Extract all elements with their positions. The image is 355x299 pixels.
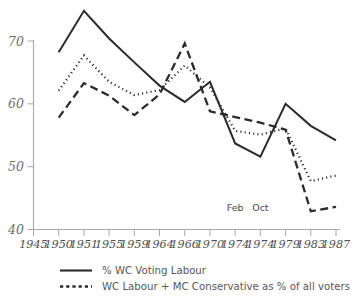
x-tick-label: 1987 — [322, 238, 351, 251]
x-tick-group — [34, 230, 337, 237]
series-line-dashed — [59, 44, 336, 212]
x-axis: 1945195019511955195919641966197019741974… — [19, 230, 351, 252]
series-line-solid — [59, 11, 336, 157]
x-tick-label: 1964 — [145, 238, 173, 251]
y-tick-label: 50 — [8, 159, 24, 174]
y-tick-label-group: 40506070 — [7, 34, 24, 238]
line-chart-svg: 40506070 1945195019511955195919641966197… — [0, 0, 355, 299]
y-tick-label: 60 — [8, 96, 24, 111]
y-tick-label: 40 — [7, 222, 24, 237]
annotation-group: FebOct — [227, 202, 269, 213]
y-axis: 40506070 — [7, 34, 33, 238]
legend: % WC Voting Labour WC Labour + MC Conser… — [60, 265, 350, 292]
series-group — [59, 11, 336, 211]
x-tick-label: 1983 — [297, 238, 325, 251]
x-tick-label: 1951 — [70, 238, 98, 251]
annotation-label: Oct — [252, 202, 269, 213]
x-tick-label: 1979 — [271, 238, 299, 251]
annotation-label: Feb — [227, 202, 244, 213]
x-tick-label: 1950 — [44, 238, 72, 251]
chart-container: 40506070 1945195019511955195919641966197… — [0, 0, 355, 299]
legend-label-1: WC Labour + MC Conservative as % of all … — [102, 281, 350, 292]
x-tick-label-group: 1945195019511955195919641966197019741974… — [19, 238, 351, 251]
y-tick-group — [28, 41, 34, 230]
x-tick-label: 1959 — [120, 238, 148, 251]
legend-label-0: % WC Voting Labour — [102, 265, 207, 276]
x-tick-label: 1970 — [196, 238, 224, 251]
x-tick-label: 1974 — [221, 238, 249, 251]
y-tick-label: 70 — [8, 34, 24, 49]
